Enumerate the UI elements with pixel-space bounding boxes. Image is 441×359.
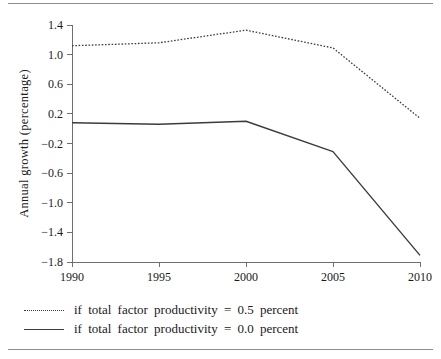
y-tick-label: −1.4 bbox=[41, 225, 63, 239]
x-tick-label: 2005 bbox=[321, 270, 345, 284]
x-tick-label: 2000 bbox=[234, 270, 258, 284]
y-tick-label: −0.6 bbox=[41, 166, 63, 180]
legend-swatch-dotted-icon bbox=[22, 304, 66, 316]
data-line-solid bbox=[72, 121, 420, 255]
x-tick-label: 2010 bbox=[408, 270, 432, 284]
x-axis: 19901995200020052010 bbox=[60, 262, 432, 284]
x-tick-label: 1990 bbox=[60, 270, 84, 284]
legend-item: if total factor productivity = 0.0 perce… bbox=[22, 319, 422, 338]
legend-item: if total factor productivity = 0.5 perce… bbox=[22, 300, 422, 319]
data-series-group bbox=[72, 30, 420, 255]
y-tick-label: 1.0 bbox=[48, 48, 63, 62]
plot-area: 1.41.00.60.2−0.2−0.6−1.0−1.4−1.8 1990199… bbox=[0, 8, 441, 298]
y-tick-label: −0.2 bbox=[41, 137, 63, 151]
y-axis: 1.41.00.60.2−0.2−0.6−1.0−1.4−1.8 bbox=[41, 18, 72, 269]
legend-swatch-solid-icon bbox=[22, 323, 66, 335]
figure-bottom-rule bbox=[8, 349, 433, 350]
line-chart: 1.41.00.60.2−0.2−0.6−1.0−1.4−1.8 1990199… bbox=[0, 8, 441, 298]
y-tick-label: 0.6 bbox=[48, 77, 63, 91]
chart-legend: if total factor productivity = 0.5 perce… bbox=[22, 300, 422, 338]
legend-label: if total factor productivity = 0.5 perce… bbox=[66, 302, 298, 318]
data-line-dotted bbox=[72, 30, 420, 118]
y-tick-label: −1.0 bbox=[41, 196, 63, 210]
legend-label: if total factor productivity = 0.0 perce… bbox=[66, 321, 298, 337]
y-axis-title: Annual growth (percentage) bbox=[17, 69, 31, 218]
y-tick-label: 1.4 bbox=[48, 18, 63, 32]
y-tick-label: 0.2 bbox=[48, 107, 63, 121]
y-tick-label: −1.8 bbox=[41, 255, 63, 269]
figure-top-rule bbox=[8, 3, 433, 4]
x-tick-label: 1995 bbox=[147, 270, 171, 284]
figure-container: 1.41.00.60.2−0.2−0.6−1.0−1.4−1.8 1990199… bbox=[0, 0, 441, 359]
